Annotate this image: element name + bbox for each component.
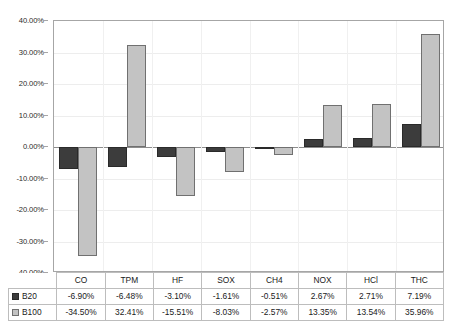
category-separator bbox=[103, 21, 104, 271]
y-axis-tick-mark bbox=[44, 20, 48, 21]
y-axis-tick-label: 30.00% bbox=[19, 47, 44, 56]
bar-b20-nox bbox=[304, 139, 323, 147]
y-axis-tick-label: 0.00% bbox=[23, 142, 44, 151]
legend-entry-b100: B100 bbox=[9, 305, 57, 321]
table-cell-b100-thc: 35.96% bbox=[395, 305, 443, 321]
bar-b20-hf bbox=[157, 147, 176, 157]
gridline bbox=[54, 179, 443, 180]
table-cell-b100-hf: -15.51% bbox=[153, 305, 201, 321]
y-axis-tick-mark bbox=[44, 52, 48, 53]
legend-swatch-icon bbox=[12, 293, 19, 300]
bar-b100-sox bbox=[225, 147, 244, 172]
table-col-header-nox: NOX bbox=[298, 273, 346, 289]
y-axis-tick-mark bbox=[44, 146, 48, 147]
table-cell-b20-ch4: -0.51% bbox=[250, 289, 298, 305]
y-axis-tick-label: 40.00% bbox=[19, 16, 44, 25]
table-cell-b100-hcl: 13.54% bbox=[347, 305, 395, 321]
bar-b20-co bbox=[59, 147, 78, 169]
y-axis-tick-mark bbox=[44, 83, 48, 84]
table-cell-b20-thc: 7.19% bbox=[395, 289, 443, 305]
bar-b100-ch4 bbox=[274, 147, 293, 155]
table-col-header-co: CO bbox=[57, 273, 105, 289]
category-separator bbox=[250, 21, 251, 271]
y-axis-tick-label: -10.00% bbox=[16, 173, 44, 182]
y-axis-tick-label: 20.00% bbox=[19, 79, 44, 88]
legend-series-label: B100 bbox=[22, 307, 42, 317]
bar-b20-sox bbox=[206, 147, 225, 152]
y-axis-tick-label: -20.00% bbox=[16, 205, 44, 214]
table-col-header-sox: SOX bbox=[202, 273, 250, 289]
y-axis-tick-mark bbox=[44, 209, 48, 210]
gridline bbox=[54, 84, 443, 85]
table-row: B20-6.90%-6.48%-3.10%-1.61%-0.51%2.67%2.… bbox=[9, 289, 444, 305]
table-cell-b20-nox: 2.67% bbox=[298, 289, 346, 305]
table-cell-b20-hcl: 2.71% bbox=[347, 289, 395, 305]
legend-entry-b20: B20 bbox=[9, 289, 57, 305]
y-axis: 40.00%30.00%20.00%10.00%0.00%-10.00%-20.… bbox=[0, 20, 48, 272]
data-table: COTPMHFSOXCH4NOXHClTHC B20-6.90%-6.48%-3… bbox=[8, 272, 444, 321]
table-body: B20-6.90%-6.48%-3.10%-1.61%-0.51%2.67%2.… bbox=[9, 289, 444, 321]
y-axis-tick-mark bbox=[44, 115, 48, 116]
table-col-header-hf: HF bbox=[153, 273, 201, 289]
table-cell-b100-sox: -8.03% bbox=[202, 305, 250, 321]
category-separator bbox=[152, 21, 153, 271]
table-row: B100-34.50%32.41%-15.51%-8.03%-2.57%13.3… bbox=[9, 305, 444, 321]
table-col-header-hcl: HCl bbox=[347, 273, 395, 289]
category-separator bbox=[396, 21, 397, 271]
gridline bbox=[54, 210, 443, 211]
legend-swatch-icon bbox=[12, 309, 19, 316]
table-cell-b100-nox: 13.35% bbox=[298, 305, 346, 321]
table-cell-b20-sox: -1.61% bbox=[202, 289, 250, 305]
plot-wrapper bbox=[53, 20, 444, 272]
bar-b20-hcl bbox=[353, 138, 372, 147]
table-cell-b20-co: -6.90% bbox=[57, 289, 105, 305]
bar-b20-thc bbox=[402, 124, 421, 147]
gridline bbox=[54, 242, 443, 243]
bar-b100-nox bbox=[323, 105, 342, 147]
emissions-bar-chart: 40.00%30.00%20.00%10.00%0.00%-10.00%-20.… bbox=[0, 0, 462, 327]
bar-b100-co bbox=[78, 147, 97, 256]
plot-area bbox=[53, 20, 444, 272]
legend-series-label: B20 bbox=[22, 291, 37, 301]
bar-b100-hf bbox=[176, 147, 195, 196]
table-cell-b20-hf: -3.10% bbox=[153, 289, 201, 305]
category-separator bbox=[347, 21, 348, 271]
table-header-row: COTPMHFSOXCH4NOXHClTHC bbox=[9, 273, 444, 289]
bar-b100-thc bbox=[421, 34, 440, 147]
bar-b100-hcl bbox=[372, 104, 391, 147]
table-col-header-thc: THC bbox=[395, 273, 443, 289]
y-axis-tick-label: -30.00% bbox=[16, 236, 44, 245]
table-cell-b20-tpm: -6.48% bbox=[105, 289, 153, 305]
gridline bbox=[54, 53, 443, 54]
table-col-header-tpm: TPM bbox=[105, 273, 153, 289]
y-axis-tick-label: 10.00% bbox=[19, 110, 44, 119]
table-cell-b100-co: -34.50% bbox=[57, 305, 105, 321]
bar-b100-tpm bbox=[127, 45, 146, 147]
table-col-header-ch4: CH4 bbox=[250, 273, 298, 289]
bar-b20-ch4 bbox=[255, 147, 274, 149]
y-axis-tick-mark bbox=[44, 178, 48, 179]
table-corner-cell bbox=[9, 273, 57, 289]
table-cell-b100-ch4: -2.57% bbox=[250, 305, 298, 321]
bar-b20-tpm bbox=[108, 147, 127, 167]
table-cell-b100-tpm: 32.41% bbox=[105, 305, 153, 321]
category-separator bbox=[298, 21, 299, 271]
y-axis-tick-mark bbox=[44, 241, 48, 242]
category-separator bbox=[201, 21, 202, 271]
